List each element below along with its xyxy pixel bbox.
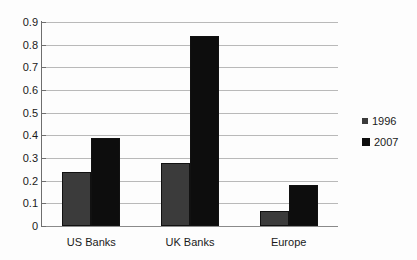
bar-uk-banks-1996 (161, 163, 190, 226)
chart-legend: 19962007 (362, 115, 417, 157)
legend-item-1996[interactable]: 1996 (362, 115, 417, 127)
bar-europe-2007 (289, 185, 318, 226)
y-axis-tick-label: 0 (4, 221, 38, 232)
y-axis-tick-label: 0.8 (4, 40, 38, 51)
y-axis-tick-label: 0.9 (4, 17, 38, 28)
x-axis-label-europe: Europe (239, 236, 338, 248)
y-axis-tick-label: 0.4 (4, 130, 38, 141)
gridline (42, 226, 338, 227)
y-axis-tick-label: 0.7 (4, 62, 38, 73)
y-axis-tick-mark (42, 113, 46, 114)
bar-us-banks-1996 (62, 172, 91, 226)
y-axis-tick-mark (42, 90, 46, 91)
y-axis-tick-mark (42, 22, 46, 23)
y-axis-tick-label: 0.5 (4, 108, 38, 119)
y-axis-tick-label: 0.2 (4, 176, 38, 187)
y-axis-tick-mark (42, 158, 46, 159)
legend-item-2007[interactable]: 2007 (362, 136, 417, 148)
y-axis-tick-mark (42, 67, 46, 68)
bar-europe-1996 (260, 211, 289, 226)
bar-chart: 00.10.20.30.40.50.60.70.80.9 US BanksUK … (0, 0, 417, 260)
y-axis-tick-mark (42, 45, 46, 46)
bar-us-banks-2007 (91, 138, 120, 226)
x-axis-label-us-banks: US Banks (42, 236, 141, 248)
legend-item-label: 2007 (374, 137, 398, 148)
y-axis-tick-label: 0.3 (4, 153, 38, 164)
y-axis-tick-labels: 00.10.20.30.40.50.60.70.80.9 (0, 0, 38, 260)
y-axis-line (41, 21, 42, 227)
legend-item-label: 1996 (372, 116, 396, 127)
gridline (42, 22, 338, 23)
y-axis-tick-mark (42, 203, 46, 204)
plot-area (42, 22, 338, 226)
y-axis-tick-label: 0.6 (4, 85, 38, 96)
y-axis-tick-label: 0.1 (4, 198, 38, 209)
x-axis-label-uk-banks: UK Banks (141, 236, 240, 248)
y-axis-tick-mark (42, 181, 46, 182)
y-axis-tick-mark (42, 226, 46, 227)
y-axis-tick-mark (42, 135, 46, 136)
legend-swatch-icon (362, 138, 370, 146)
legend-swatch-icon (362, 118, 368, 124)
bar-uk-banks-2007 (190, 36, 219, 226)
